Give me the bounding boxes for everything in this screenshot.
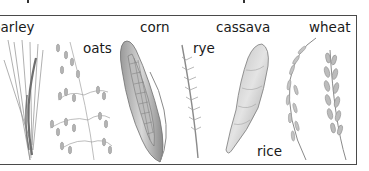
rice-panicle-icon (286, 38, 316, 160)
label-cassava: cassava (216, 21, 270, 35)
label-rye: rye (193, 42, 215, 56)
corn-cob-icon (120, 41, 166, 162)
label-barley: barley (0, 21, 34, 35)
label-corn: corn (140, 21, 170, 35)
oat-panicle-icon (50, 42, 112, 160)
rye-ear-icon (182, 45, 201, 158)
cassava-root-icon (226, 44, 268, 153)
label-oats: oats (83, 42, 112, 56)
label-rice: rice (257, 145, 282, 159)
wheat-ear-icon (323, 50, 346, 160)
barley-ear-icon (4, 40, 43, 160)
label-wheat: wheat (309, 21, 350, 35)
